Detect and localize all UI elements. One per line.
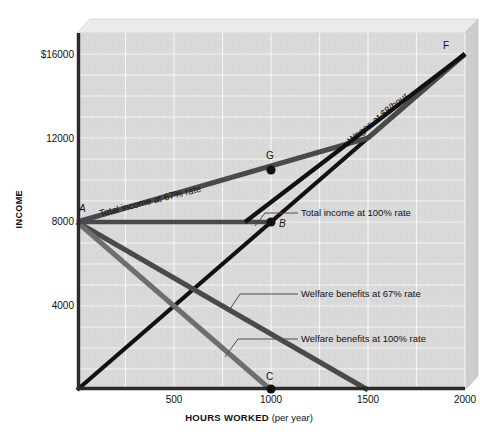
point-dot-B [266, 217, 275, 226]
callout-total-income-100: Total income at 100% rate [301, 207, 411, 218]
income-vs-hours-chart [0, 0, 498, 441]
point-dot-C [266, 384, 275, 393]
point-label-C: C [266, 371, 273, 382]
y-tick-8000: 8000 [18, 216, 74, 227]
x-tick-1000: 1000 [241, 394, 301, 405]
x-axis-title-main: HOURS WORKED [185, 412, 269, 423]
y-tick-4000: 4000 [18, 300, 74, 311]
point-label-G: G [266, 150, 274, 161]
y-tick-16000: $16000 [18, 49, 74, 60]
y-tick-labels: $16000 12000 8000 4000 [14, 0, 74, 441]
point-label-B: B [279, 218, 286, 229]
x-tick-500: 500 [144, 394, 204, 405]
chart-figure: INCOME $16000 12000 8000 4000 500 1000 1… [0, 0, 498, 441]
x-tick-2000: 2000 [435, 394, 495, 405]
point-dot-G [266, 165, 275, 174]
x-axis-title-sub: (per year) [272, 412, 313, 423]
x-axis-title: HOURS WORKED (per year) [0, 412, 498, 423]
x-tick-1500: 1500 [338, 394, 398, 405]
y-tick-12000: 12000 [18, 133, 74, 144]
plot-3d-top-bevel [77, 19, 478, 33]
point-label-A: A [79, 203, 86, 214]
callout-welfare-100: Welfare benefits at 100% rate [301, 333, 426, 344]
plot-3d-right-bevel [465, 19, 478, 390]
point-label-F: F [443, 40, 449, 51]
callout-welfare-67: Welfare benefits at 67% rate [301, 288, 421, 299]
